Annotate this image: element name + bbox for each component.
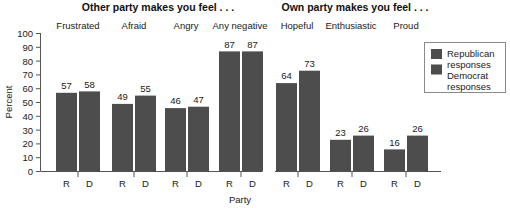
- bar-afraid-republican: [112, 104, 133, 172]
- bar-angry-democrat: [188, 107, 209, 172]
- category-label-enthusiastic: Enthusiastic: [325, 20, 376, 31]
- x-tick-enthusiastic-d: D: [360, 178, 367, 189]
- value-label-hopeful-republican: 64: [281, 70, 292, 81]
- y-tick-70: 70: [22, 69, 33, 80]
- bar-afraid-democrat: [135, 96, 156, 172]
- panel-title-own-party: Own party makes you feel . . .: [281, 1, 428, 13]
- value-label-proud-democrat: 26: [412, 123, 423, 134]
- bar-enthusiastic-democrat: [353, 136, 374, 172]
- x-tick-any-negative-d: D: [249, 178, 256, 189]
- bar-enthusiastic-republican: [330, 140, 351, 172]
- panel-title-other-party: Other party makes you feel . . .: [82, 1, 234, 13]
- bar-frustrated-democrat: [79, 91, 100, 171]
- x-tick-afraid-d: D: [142, 178, 149, 189]
- legend-label-republican-line1: Republican: [447, 48, 495, 59]
- y-axis: 100 90 80 70 60 50 40 30 20 10 0 Percent: [3, 28, 41, 177]
- bar-frustrated-republican: [56, 93, 77, 172]
- y-axis-title: Percent: [3, 85, 14, 118]
- x-tick-frustrated-d: D: [86, 178, 93, 189]
- category-label-proud: Proud: [393, 20, 418, 31]
- bar-any-negative-republican: [219, 51, 240, 171]
- legend-label-republican-line2: responses: [447, 59, 491, 70]
- x-tick-any-negative-r: R: [226, 178, 233, 189]
- value-label-frustrated-republican: 57: [61, 80, 72, 91]
- legend-label-democrat-line1: Democrat: [447, 70, 489, 81]
- x-tick-enthusiastic-r: R: [337, 178, 344, 189]
- bar-hopeful-republican: [276, 83, 297, 171]
- bar-proud-republican: [384, 149, 405, 171]
- value-label-enthusiastic-democrat: 26: [358, 123, 369, 134]
- value-label-afraid-democrat: 55: [140, 83, 151, 94]
- legend-label-democrat-line2: responses: [447, 81, 491, 92]
- y-tick-50: 50: [22, 97, 33, 108]
- value-label-angry-republican: 46: [170, 95, 181, 106]
- y-tick-0: 0: [28, 166, 33, 177]
- x-tick-frustrated-r: R: [63, 178, 70, 189]
- legend: Republican responses Democrat responses: [425, 43, 506, 93]
- value-label-proud-republican: 16: [389, 137, 400, 148]
- y-tick-10: 10: [22, 152, 33, 163]
- bar-hopeful-democrat: [299, 71, 320, 172]
- y-tick-40: 40: [22, 111, 33, 122]
- y-tick-100: 100: [17, 28, 33, 39]
- y-tick-30: 30: [22, 125, 33, 136]
- x-tick-labels: R D R D R D R D R D R D R D: [63, 178, 421, 189]
- category-label-afraid: Afraid: [122, 20, 147, 31]
- category-label-frustrated: Frustrated: [56, 20, 99, 31]
- bar-proud-democrat: [407, 136, 428, 172]
- y-tick-20: 20: [22, 138, 33, 149]
- value-label-angry-democrat: 47: [193, 94, 204, 105]
- value-label-afraid-republican: 49: [117, 91, 128, 102]
- x-tick-afraid-r: R: [119, 178, 126, 189]
- value-label-hopeful-democrat: 73: [304, 58, 315, 69]
- legend-swatch-republican: [431, 49, 442, 59]
- y-tick-60: 60: [22, 83, 33, 94]
- x-tick-angry-r: R: [172, 178, 179, 189]
- category-label-hopeful: Hopeful: [281, 20, 314, 31]
- value-label-frustrated-democrat: 58: [84, 79, 95, 90]
- x-tick-hopeful-d: D: [306, 178, 313, 189]
- category-label-any-negative: Any negative: [213, 20, 268, 31]
- y-tick-80: 80: [22, 56, 33, 67]
- x-axis: Party: [41, 172, 442, 206]
- x-tick-proud-d: D: [414, 178, 421, 189]
- bar-angry-republican: [165, 108, 186, 171]
- grouped-bar-chart: Other party makes you feel . . . Own par…: [0, 0, 510, 208]
- x-axis-title: Party: [229, 194, 251, 205]
- value-label-enthusiastic-republican: 23: [335, 127, 346, 138]
- bar-any-negative-democrat: [242, 51, 263, 171]
- x-tick-proud-r: R: [391, 178, 398, 189]
- value-label-any-negative-democrat: 87: [247, 39, 258, 50]
- x-tick-angry-d: D: [195, 178, 202, 189]
- value-label-any-negative-republican: 87: [224, 39, 235, 50]
- y-tick-90: 90: [22, 42, 33, 53]
- category-label-angry: Angry: [174, 20, 199, 31]
- x-tick-hopeful-r: R: [283, 178, 290, 189]
- legend-swatch-democrat: [431, 65, 442, 75]
